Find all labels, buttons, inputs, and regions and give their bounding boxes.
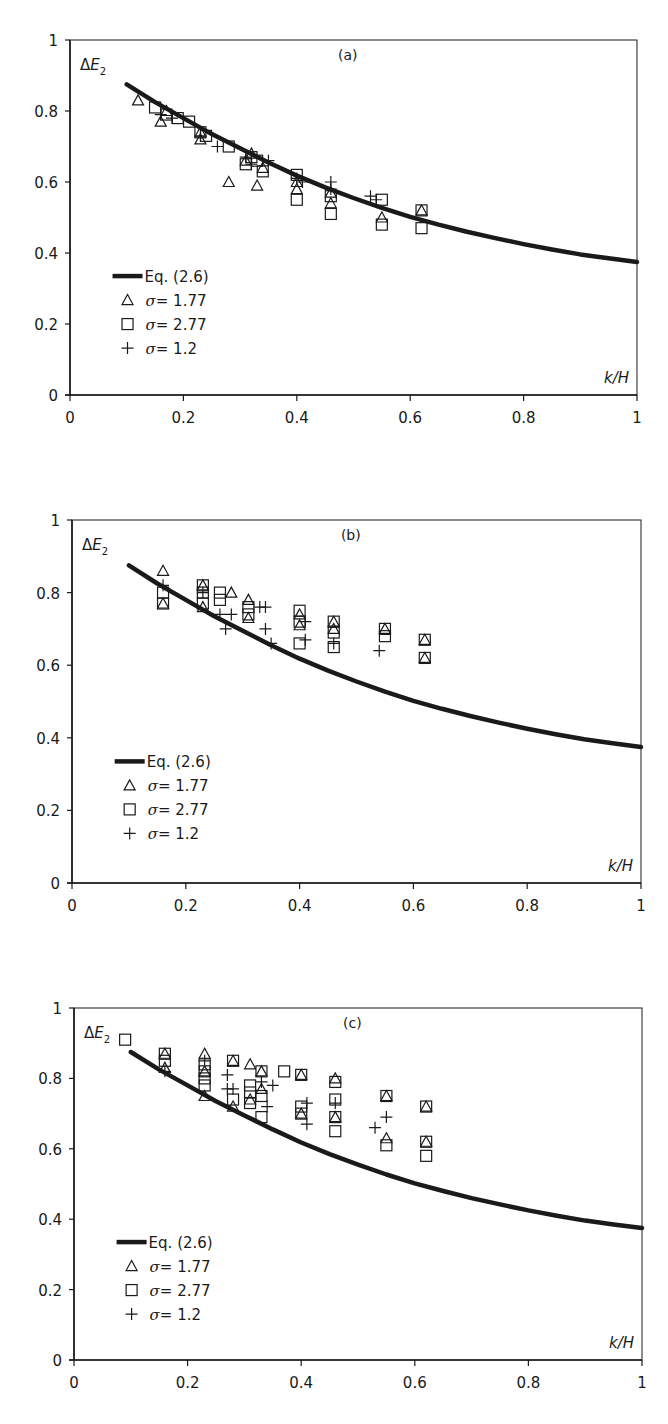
data-point-square-marker (325, 208, 336, 219)
x-tick-label: 0 (65, 409, 75, 427)
y-tick-label: 0.2 (36, 802, 60, 820)
data-point-square-marker (379, 631, 390, 642)
data-point-square-marker (416, 205, 427, 216)
legend-plus-marker (122, 342, 134, 354)
eq-2-6-curve (127, 84, 637, 262)
y-tick-label: 1 (52, 1000, 62, 1018)
data-point-plus-marker (369, 1122, 381, 1134)
series-plus (159, 1055, 393, 1134)
x-tick-label: 0.8 (515, 897, 539, 915)
data-point-square-marker (245, 1098, 256, 1109)
data-point-plus-marker (301, 1097, 313, 1109)
x-tick-label: 0 (67, 897, 77, 915)
y-tick-label: 0.8 (38, 1070, 62, 1088)
y-tick-label: 0.2 (34, 316, 58, 334)
data-point-square-marker (379, 623, 390, 634)
series-plus (157, 579, 385, 656)
x-tick-label: 0.2 (174, 897, 198, 915)
legend-item-label: σ= 2.77 (150, 1282, 211, 1300)
data-point-triangle-marker (421, 1101, 432, 1111)
y-tick-label: 0.4 (36, 730, 60, 748)
y-tick-label: 0.8 (36, 585, 60, 603)
chart-panel-c: 00.20.40.60.8100.20.40.60.81ΔE2(c)k/HEq.… (0, 960, 668, 1424)
y-axis-title: ΔE2 (80, 56, 106, 77)
data-point-triangle-marker (376, 212, 387, 222)
chart-panel-a: 00.20.40.60.8100.20.40.60.81ΔE2(a)k/HEq.… (0, 0, 668, 450)
data-point-square-marker (228, 1055, 239, 1066)
data-point-square-marker (296, 1108, 307, 1119)
data-point-triangle-marker (158, 598, 169, 608)
data-point-square-marker (421, 1136, 432, 1147)
data-point-plus-marker (155, 109, 167, 121)
data-point-triangle-marker (330, 1073, 341, 1083)
data-point-square-marker (421, 1101, 432, 1112)
data-point-square-marker (330, 1076, 341, 1087)
data-point-plus-marker (373, 645, 385, 657)
x-tick-label: 0.2 (171, 409, 195, 427)
y-tick-label: 0.4 (34, 245, 58, 263)
data-point-triangle-marker (228, 1055, 239, 1065)
data-point-square-marker (421, 1150, 432, 1161)
legend-triangle-marker (124, 780, 135, 790)
scatter-plot-b: 00.20.40.60.8100.20.40.60.81ΔE2(b)k/HEq.… (0, 480, 668, 930)
legend-item-label: σ= 1.2 (148, 825, 199, 843)
data-point-square-marker (291, 194, 302, 205)
x-tick-label: 0.6 (398, 409, 422, 427)
data-point-triangle-marker (243, 613, 254, 623)
data-point-square-marker (381, 1091, 392, 1102)
data-point-square-marker (199, 1066, 210, 1077)
legend-curve-label: Eq. (2.6) (145, 268, 209, 286)
data-point-square-marker (256, 1066, 267, 1077)
y-tick-label: 0.2 (38, 1282, 62, 1300)
data-point-square-marker (279, 1066, 290, 1077)
y-tick-label: 0 (52, 1352, 62, 1370)
scatter-plot-c: 00.20.40.60.8100.20.40.60.81ΔE2(c)k/HEq.… (0, 960, 668, 1424)
x-tick-label: 0.4 (285, 409, 309, 427)
data-point-plus-marker (380, 1111, 392, 1123)
data-point-triangle-marker (416, 205, 427, 215)
data-point-plus-marker (255, 1076, 267, 1088)
data-point-triangle-marker (245, 1094, 256, 1104)
x-tick-label: 0.4 (289, 1374, 313, 1392)
y-tick-label: 1 (50, 512, 60, 530)
data-point-plus-marker (299, 616, 311, 628)
legend-triangle-marker (122, 295, 133, 305)
panel-label: (c) (343, 1015, 362, 1031)
data-point-triangle-marker (330, 1112, 341, 1122)
data-point-triangle-marker (256, 1066, 267, 1076)
data-point-plus-marker (227, 1083, 239, 1095)
legend-item-label: σ= 1.77 (148, 777, 209, 795)
data-point-square-marker (243, 609, 254, 620)
data-point-square-marker (245, 1087, 256, 1098)
data-point-square-marker (419, 634, 430, 645)
data-point-triangle-marker (328, 623, 339, 633)
legend-curve-label: Eq. (2.6) (147, 753, 211, 771)
y-tick-label: 0.4 (38, 1211, 62, 1229)
legend-curve-label: Eq. (2.6) (149, 1234, 213, 1252)
legend-plus-marker (124, 827, 136, 839)
data-point-square-marker (330, 1112, 341, 1123)
y-tick-label: 0.8 (34, 103, 58, 121)
data-point-square-marker (328, 616, 339, 627)
legend: Eq. (2.6)σ= 1.77σ= 2.77σ= 1.2 (113, 268, 209, 358)
x-tick-label: 0.8 (512, 409, 536, 427)
data-point-triangle-marker (226, 587, 237, 597)
data-point-square-marker (228, 1094, 239, 1105)
data-point-plus-marker (301, 1118, 313, 1130)
x-tick-label: 0 (69, 1374, 79, 1392)
data-point-triangle-marker (381, 1133, 392, 1143)
y-tick-label: 0 (48, 387, 58, 405)
data-point-square-marker (214, 594, 225, 605)
chart-panel-b: 00.20.40.60.8100.20.40.60.81ΔE2(b)k/HEq.… (0, 480, 668, 930)
data-point-plus-marker (328, 637, 340, 649)
panel-label: (a) (338, 47, 358, 63)
x-tick-label: 0.6 (401, 897, 425, 915)
data-point-triangle-marker (419, 634, 430, 644)
legend-item-label: σ= 1.2 (150, 1306, 201, 1324)
data-point-plus-marker (245, 158, 257, 170)
y-tick-label: 0.6 (38, 1141, 62, 1159)
scatter-plot-a: 00.20.40.60.8100.20.40.60.81ΔE2(a)k/HEq.… (0, 0, 668, 450)
data-point-square-marker (256, 1091, 267, 1102)
y-tick-label: 1 (48, 32, 58, 50)
x-tick-label: 0.4 (288, 897, 312, 915)
